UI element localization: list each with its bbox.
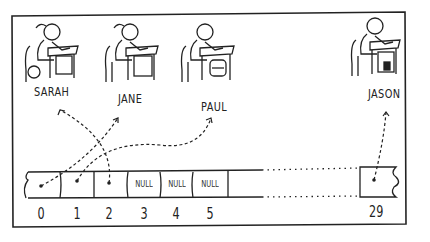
label-jane: JANE: [118, 91, 142, 106]
cell-5-null: NULL: [197, 179, 223, 189]
frame-border: [12, 12, 406, 227]
index-4: 4: [169, 204, 183, 223]
index-29: 29: [369, 202, 383, 221]
cell-3-null: NULL: [131, 179, 157, 189]
student-paul-figure: [182, 24, 235, 82]
label-sarah: SARAH: [34, 84, 69, 99]
student-sarah-figure: [26, 24, 79, 82]
index-3: 3: [137, 204, 151, 223]
index-2: 2: [102, 204, 116, 223]
label-jason: JASON: [368, 86, 400, 101]
arrowhead-jane-icon: [113, 118, 118, 123]
student-jane-figure: [106, 24, 159, 82]
index-5: 5: [203, 204, 217, 223]
arrow-29-to-jason: [374, 112, 386, 180]
cell-4-null: NULL: [164, 179, 190, 189]
index-1: 1: [70, 204, 84, 223]
label-paul: PAUL: [201, 99, 227, 114]
index-0: 0: [34, 204, 48, 223]
student-jason-figure: [352, 18, 401, 76]
